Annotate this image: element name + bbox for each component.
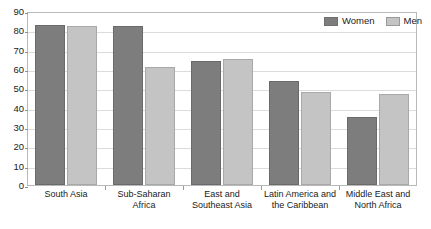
legend-swatch-men-icon [386, 17, 400, 26]
bar-men [301, 92, 331, 185]
bar-women [113, 26, 143, 185]
legend-item-women: Women [324, 16, 375, 26]
y-tick-label: 20 [0, 143, 24, 153]
bar-chart: 0102030405060708090 Women Men South Asia… [0, 0, 431, 229]
bar-women [191, 61, 221, 185]
legend-item-men: Men [386, 16, 422, 26]
bar-group [262, 13, 340, 185]
y-tick-label: 40 [0, 104, 24, 114]
x-axis-category-label: Latin America andthe Caribbean [261, 189, 339, 211]
y-axis: 0102030405060708090 [0, 12, 24, 186]
y-tick-label: 60 [0, 65, 24, 75]
bar-men [379, 94, 409, 185]
x-axis-category-label-line: South Asia [27, 189, 105, 200]
x-axis-category-label: South Asia [27, 189, 105, 200]
x-axis-category-label-line: Middle East and [339, 189, 417, 200]
y-tick-label: 30 [0, 123, 24, 133]
x-axis-category-label-line: Africa [105, 200, 183, 211]
y-axis-tick [25, 187, 28, 188]
bar-group [106, 13, 184, 185]
x-axis-category-label-line: Latin America and [261, 189, 339, 200]
y-tick-label: 90 [0, 7, 24, 17]
bars-layer [28, 13, 416, 185]
x-axis-category-label-line: the Caribbean [261, 200, 339, 211]
x-axis-category-label-line: Sub-Saharan [105, 189, 183, 200]
bar-women [347, 117, 377, 185]
bar-women [35, 25, 65, 185]
x-axis-category-label-line: Southeast Asia [183, 200, 261, 211]
chart-legend: Women Men [324, 16, 422, 26]
y-tick-label: 80 [0, 27, 24, 37]
bar-men [145, 67, 175, 185]
bar-group [184, 13, 262, 185]
legend-label-men: Men [404, 16, 422, 26]
y-tick-label: 50 [0, 85, 24, 95]
bar-men [67, 26, 97, 185]
bar-women [269, 81, 299, 185]
legend-label-women: Women [342, 16, 375, 26]
y-tick-label: 70 [0, 46, 24, 56]
legend-swatch-women-icon [324, 17, 338, 26]
bar-group [28, 13, 106, 185]
y-tick-label: 0 [0, 181, 24, 191]
x-axis-category-label: Middle East andNorth Africa [339, 189, 417, 211]
plot-area [27, 12, 417, 186]
bar-men [223, 59, 253, 185]
y-tick-label: 10 [0, 162, 24, 172]
x-axis-labels: South AsiaSub-SaharanAfricaEast andSouth… [27, 189, 417, 229]
x-axis-category-label: East andSoutheast Asia [183, 189, 261, 211]
bar-group [340, 13, 418, 185]
x-axis-category-label: Sub-SaharanAfrica [105, 189, 183, 211]
x-axis-category-label-line: East and [183, 189, 261, 200]
x-axis-category-label-line: North Africa [339, 200, 417, 211]
